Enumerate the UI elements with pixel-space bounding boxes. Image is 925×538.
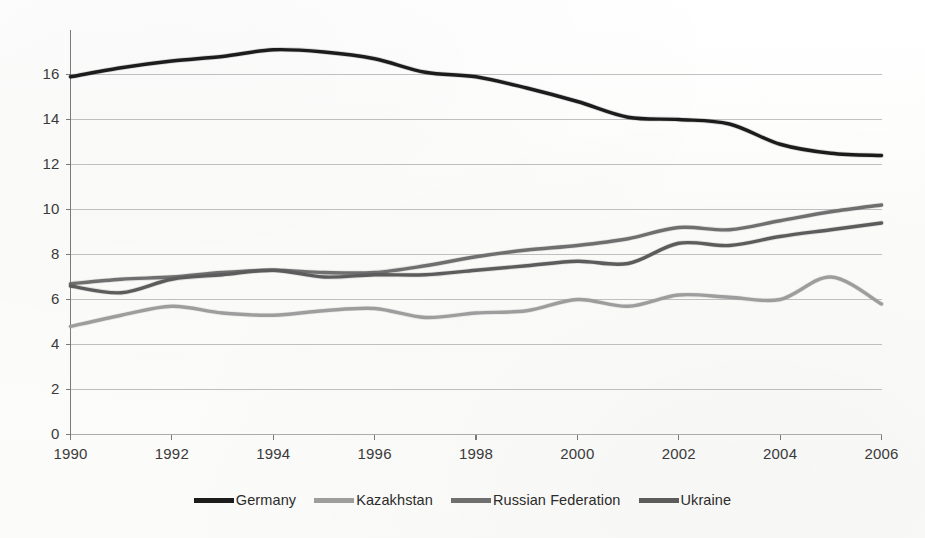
legend-item-ukraine[interactable]: Ukraine <box>639 492 732 508</box>
x-tick-label: 1996 <box>345 445 405 462</box>
series-line-germany <box>71 50 882 156</box>
chart-legend: GermanyKazakhstanRussian FederationUkrai… <box>0 492 925 508</box>
x-tick-label: 2006 <box>852 445 912 462</box>
y-tick-label: 6 <box>51 290 60 307</box>
x-tick-label: 2000 <box>547 445 607 462</box>
legend-swatch-icon <box>451 498 491 503</box>
legend-label: Germany <box>236 492 296 508</box>
series-line-kazakhstan <box>71 277 882 327</box>
y-tick-label: 14 <box>42 110 59 127</box>
y-tick-label: 2 <box>51 380 60 397</box>
data-series-group <box>71 50 882 327</box>
legend-swatch-icon <box>639 498 679 503</box>
x-tick-label: 2002 <box>649 445 709 462</box>
legend-label: Russian Federation <box>493 492 621 508</box>
y-tick-label: 8 <box>51 245 60 262</box>
x-tick-label: 2004 <box>750 445 810 462</box>
legend-label: Ukraine <box>681 492 732 508</box>
x-tick-marks <box>71 435 882 440</box>
legend-item-kazakhstan[interactable]: Kazakhstan <box>314 492 433 508</box>
legend-swatch-icon <box>194 498 234 503</box>
x-tick-label: 1994 <box>243 445 303 462</box>
y-tick-label: 12 <box>42 155 59 172</box>
y-tick-label: 4 <box>51 335 60 352</box>
legend-swatch-icon <box>314 498 354 503</box>
y-tick-marks <box>66 75 71 435</box>
x-tick-label: 1998 <box>446 445 506 462</box>
line-chart: 0246810121416 19901992199419961998200020… <box>0 0 925 538</box>
x-tick-label: 1990 <box>41 445 101 462</box>
y-tick-label: 16 <box>42 65 59 82</box>
y-tick-label: 10 <box>42 200 59 217</box>
legend-label: Kazakhstan <box>356 492 433 508</box>
x-tick-label: 1992 <box>142 445 202 462</box>
y-tick-label: 0 <box>51 425 60 442</box>
legend-item-germany[interactable]: Germany <box>194 492 296 508</box>
legend-item-russian-federation[interactable]: Russian Federation <box>451 492 621 508</box>
